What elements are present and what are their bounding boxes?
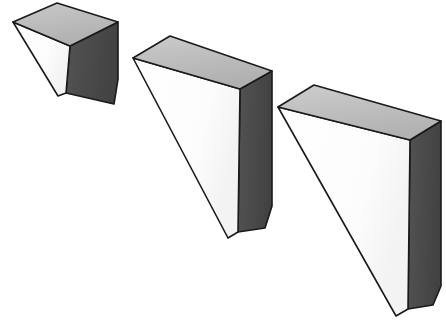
wedge-large-side-face	[408, 121, 441, 309]
wedge-medium-side-face	[238, 71, 272, 232]
wedge-large-front-face	[278, 107, 410, 316]
figure-canvas: Three wedge-shaped triangular prisms in …	[0, 0, 446, 328]
wedge-medium	[133, 36, 272, 238]
wedges-illustration: Three wedge-shaped triangular prisms in …	[0, 0, 446, 328]
wedge-large	[278, 85, 441, 316]
wedge-small	[13, 3, 118, 104]
